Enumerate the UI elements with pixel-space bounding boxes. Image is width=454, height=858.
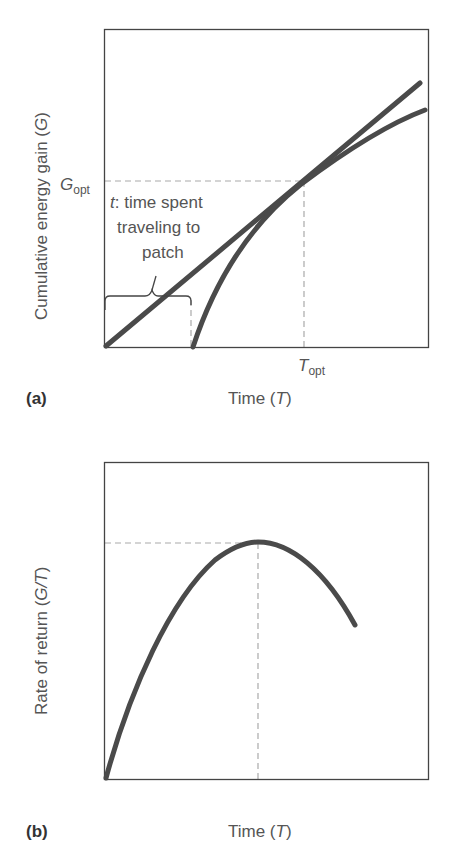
figure: t: time spent traveling to patch Gopt To… xyxy=(0,0,454,858)
y-axis-label-a: Cumulative energy gain (G) xyxy=(32,112,51,320)
x-axis-label-b: Time (T) xyxy=(228,822,292,841)
brace-pointer xyxy=(152,276,156,290)
panel-a: t: time spent traveling to patch Gopt To… xyxy=(26,30,429,409)
panel-label-b: (b) xyxy=(26,822,48,841)
plot-frame-a xyxy=(105,30,429,348)
g-opt-label: Gopt xyxy=(60,175,91,197)
travel-time-brace-icon xyxy=(105,290,191,310)
travel-annotation-line3: patch xyxy=(142,243,184,262)
rate-of-return-curve xyxy=(106,542,355,778)
panel-label-a: (a) xyxy=(26,389,47,408)
x-axis-label-a: Time (T) xyxy=(228,389,292,408)
gain-curve xyxy=(193,110,425,347)
travel-annotation-line2: traveling to xyxy=(117,218,200,237)
tangent-line xyxy=(106,83,420,346)
travel-annotation-line1: t: time spent xyxy=(110,193,203,212)
t-opt-label: Topt xyxy=(298,356,326,378)
plot-frame-b xyxy=(105,463,429,780)
y-axis-label-b: Rate of return (G/T) xyxy=(32,567,51,715)
panel-b: Rate of return (G/T) Time (T) (b) xyxy=(26,463,429,842)
